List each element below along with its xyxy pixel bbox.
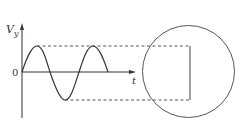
oscilloscope-screen-circle bbox=[143, 26, 235, 118]
x-axis-arrow-icon bbox=[129, 70, 136, 74]
y-axis-label: Vy bbox=[6, 23, 19, 38]
sine-waveform bbox=[22, 46, 108, 100]
x-axis-label: t bbox=[132, 75, 137, 86]
y-axis-arrow-icon bbox=[20, 23, 24, 30]
oscilloscope-diagram: Vy 0 t bbox=[0, 0, 251, 126]
origin-label: 0 bbox=[12, 67, 18, 78]
